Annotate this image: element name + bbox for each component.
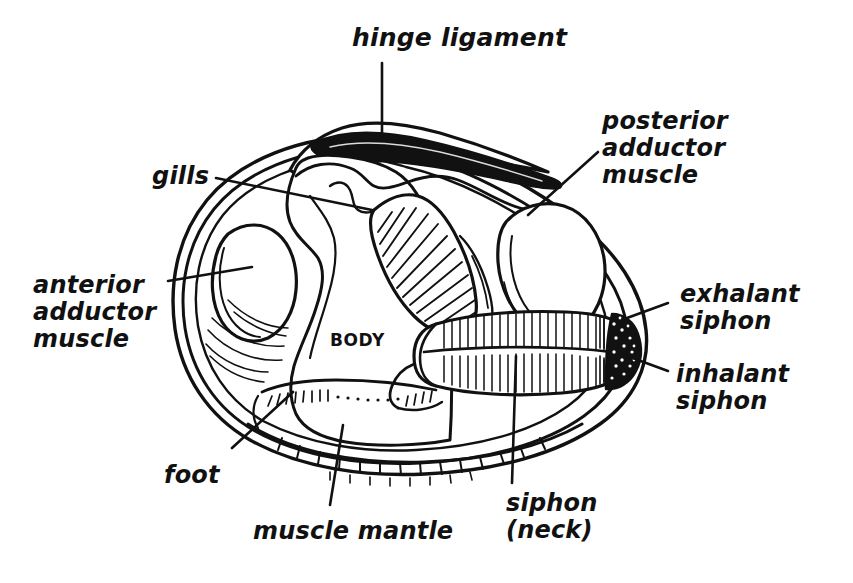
label-exhalant-siphon: exhalant siphon (680, 281, 800, 335)
foot-leader (232, 392, 293, 448)
exhalant-siphon-leader (627, 303, 668, 318)
label-posterior-adductor-muscle: posterior adductor muscle (602, 108, 728, 189)
label-foot: foot (164, 462, 220, 489)
label-hinge-ligament: hinge ligament (352, 24, 567, 52)
label-anterior-adductor-muscle: anterior adductor muscle (33, 272, 156, 353)
label-muscle-mantle: muscle mantle (253, 518, 453, 545)
label-gills: gills (152, 163, 209, 190)
label-body: BODY (330, 330, 385, 350)
label-inhalant-siphon: inhalant siphon (676, 361, 789, 415)
label-siphon-neck: siphon (neck) (506, 490, 598, 544)
anterior-adductor-shape (206, 225, 296, 382)
clam-anatomy-figure: hinge ligament posterior adductor muscle… (0, 0, 853, 583)
